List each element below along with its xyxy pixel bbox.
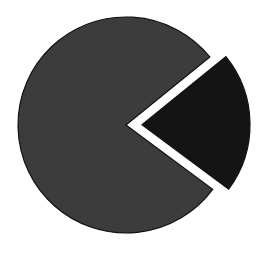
pie-chart [0, 0, 264, 257]
pie-slices [18, 17, 250, 233]
